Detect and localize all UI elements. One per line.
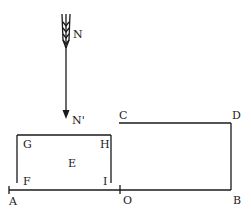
label-B: B: [233, 194, 241, 207]
diagram-canvas: N N' G H E F I A O B C D: [0, 0, 251, 214]
feathered-arrow: [62, 14, 70, 119]
label-N-prime: N': [72, 114, 85, 127]
label-G: G: [23, 138, 32, 151]
label-A: A: [8, 195, 18, 208]
label-D: D: [232, 109, 241, 122]
label-F: F: [23, 175, 31, 188]
label-H: H: [100, 138, 110, 151]
label-I: I: [103, 175, 107, 188]
label-O: O: [123, 194, 132, 207]
label-N: N: [73, 28, 83, 41]
label-E: E: [68, 157, 76, 170]
baseline-AOB: [9, 185, 231, 194]
arrowhead-icon: [63, 110, 70, 119]
label-C: C: [119, 109, 127, 122]
